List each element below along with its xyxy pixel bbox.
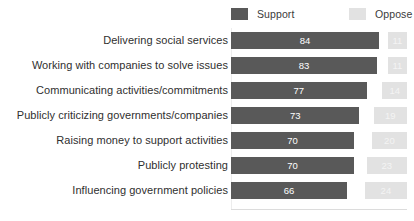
- plot-area: Delivering social services 84 11 Working…: [0, 28, 414, 210]
- chart-row: Publicly protesting 70 23: [0, 153, 414, 178]
- chart-legend: Support Oppose: [231, 6, 407, 22]
- bar-group: 84 11: [231, 28, 407, 53]
- bar-group: 77 14: [231, 78, 407, 103]
- bar-support: 77: [231, 82, 367, 99]
- bar-oppose: 24: [365, 182, 407, 199]
- category-label: Influencing government policies: [72, 178, 228, 203]
- chart-row: Raising money to support activities 70 2…: [0, 128, 414, 153]
- category-label: Publicly protesting: [138, 153, 228, 178]
- bar-chart: Support Oppose Delivering social service…: [0, 0, 414, 221]
- bar-value-oppose: 23: [381, 161, 392, 171]
- legend-entry-oppose: Oppose: [349, 6, 412, 22]
- bar-support: 70: [231, 157, 354, 174]
- chart-row: Publicly criticizing governments/compani…: [0, 103, 414, 128]
- bar-oppose: 23: [367, 157, 407, 174]
- bar-value-support: 66: [284, 186, 295, 196]
- bar-group: 70 20: [231, 128, 407, 153]
- bar-support: 73: [231, 107, 359, 124]
- legend-swatch-oppose-icon: [349, 8, 366, 20]
- bar-group: 66 24: [231, 178, 407, 203]
- chart-row: Working with companies to solve issues 8…: [0, 53, 414, 78]
- legend-label-oppose: Oppose: [375, 8, 412, 20]
- bar-value-oppose: 11: [392, 36, 402, 46]
- bar-value-support: 83: [299, 61, 310, 71]
- bar-group: 70 23: [231, 153, 407, 178]
- bar-group: 83 11: [231, 53, 407, 78]
- bar-support: 66: [231, 182, 347, 199]
- legend-swatch-support-icon: [231, 8, 248, 20]
- chart-row: Influencing government policies 66 24: [0, 178, 414, 203]
- legend-entry-support: Support: [231, 6, 294, 22]
- bar-value-support: 70: [287, 136, 298, 146]
- bar-oppose: 14: [382, 82, 407, 99]
- bar-oppose: 11: [388, 32, 407, 49]
- bar-value-oppose: 14: [389, 86, 400, 96]
- bar-support: 84: [231, 32, 379, 49]
- bar-support: 70: [231, 132, 354, 149]
- chart-row: Delivering social services 84 11: [0, 28, 414, 53]
- bar-value-support: 84: [300, 36, 311, 46]
- bar-value-oppose: 19: [385, 111, 396, 121]
- chart-row: Communicating activities/commitments 77 …: [0, 78, 414, 103]
- bar-oppose: 19: [374, 107, 407, 124]
- category-label: Delivering social services: [103, 28, 228, 53]
- value-axis-line: [231, 209, 407, 210]
- bar-oppose: 20: [372, 132, 407, 149]
- category-label: Working with companies to solve issues: [32, 53, 228, 78]
- category-label: Publicly criticizing governments/compani…: [17, 103, 228, 128]
- bar-value-support: 70: [287, 161, 298, 171]
- category-label: Raising money to support activities: [56, 128, 228, 153]
- bar-value-support: 77: [293, 86, 304, 96]
- bar-oppose: 11: [388, 57, 407, 74]
- bar-value-oppose: 24: [381, 186, 392, 196]
- bar-support: 83: [231, 57, 377, 74]
- bar-value-oppose: 20: [384, 136, 395, 146]
- legend-label-support: Support: [257, 8, 294, 20]
- category-label: Communicating activities/commitments: [36, 78, 228, 103]
- bar-group: 73 19: [231, 103, 407, 128]
- bar-value-support: 73: [290, 111, 301, 121]
- bar-value-oppose: 11: [392, 61, 402, 71]
